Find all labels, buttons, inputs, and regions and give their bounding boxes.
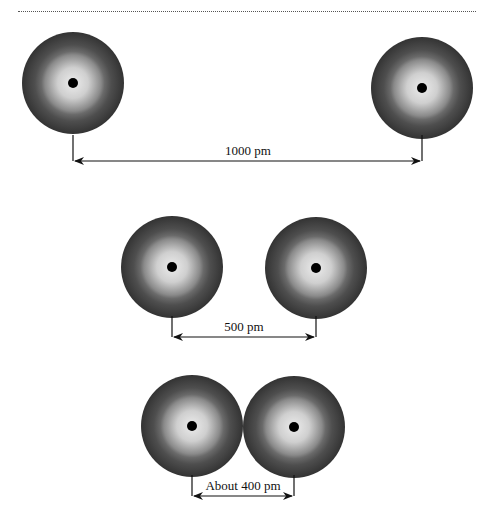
nucleus-dot (187, 421, 197, 431)
atom (243, 376, 345, 478)
atom-pair-row: 1000 pm (22, 32, 473, 161)
distance-label: 1000 pm (225, 143, 271, 158)
atom (141, 375, 243, 477)
atom-distance-diagram: 1000 pm500 pmAbout 400 pm (0, 0, 497, 520)
atom (121, 216, 223, 318)
nucleus-dot (417, 83, 427, 93)
atom-pair-row: About 400 pm (141, 375, 345, 496)
distance-label: 500 pm (224, 319, 263, 334)
distance-label: About 400 pm (205, 478, 280, 493)
nucleus-dot (311, 263, 321, 273)
atom (265, 217, 367, 319)
atom-pair-row: 500 pm (121, 216, 367, 337)
atom (22, 32, 124, 134)
nucleus-dot (289, 422, 299, 432)
nucleus-dot (167, 262, 177, 272)
nucleus-dot (68, 78, 78, 88)
atom (371, 37, 473, 139)
